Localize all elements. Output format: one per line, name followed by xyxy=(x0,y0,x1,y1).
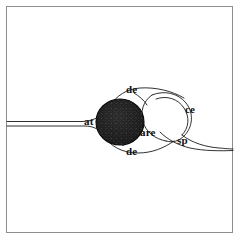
label-at: at xyxy=(84,116,94,127)
process-exit-strand xyxy=(182,135,233,149)
label-sp: sp xyxy=(177,135,188,146)
label-de-bottom: de xyxy=(126,146,137,157)
label-ce: ce xyxy=(185,104,195,115)
axon-lower-edge xyxy=(7,126,104,136)
loop-inner-arc xyxy=(156,97,188,135)
diagram-svg xyxy=(0,0,240,240)
label-de-top: de xyxy=(126,84,137,95)
cell-body xyxy=(96,99,144,145)
figure-canvas: de at are ce sp de xyxy=(0,0,240,240)
label-are: are xyxy=(140,127,156,138)
